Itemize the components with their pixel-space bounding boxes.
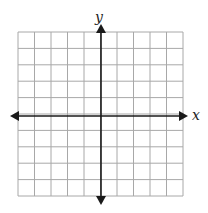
coordinate-plane <box>0 0 208 213</box>
y-axis-down-arrow-icon <box>96 196 106 205</box>
y-axis-label: y <box>95 10 103 24</box>
y-axis-up-arrow-icon <box>96 24 106 33</box>
x-axis-left-arrow-icon <box>10 111 19 121</box>
x-axis-label: x <box>192 108 200 122</box>
